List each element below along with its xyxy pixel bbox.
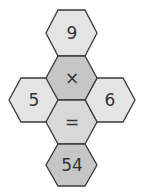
hexagon-puzzle: 9 5 6 × = 54 xyxy=(0,0,143,196)
cell-value: 9 xyxy=(67,23,78,43)
equals-sign: = xyxy=(65,112,79,132)
hex-cell-result: 54 xyxy=(46,144,97,186)
hex-cell-top: 9 xyxy=(46,10,97,56)
cell-value: 6 xyxy=(105,90,116,110)
multiply-sign: × xyxy=(65,68,79,88)
cell-value: 54 xyxy=(61,155,83,175)
cell-value: 5 xyxy=(29,90,40,110)
